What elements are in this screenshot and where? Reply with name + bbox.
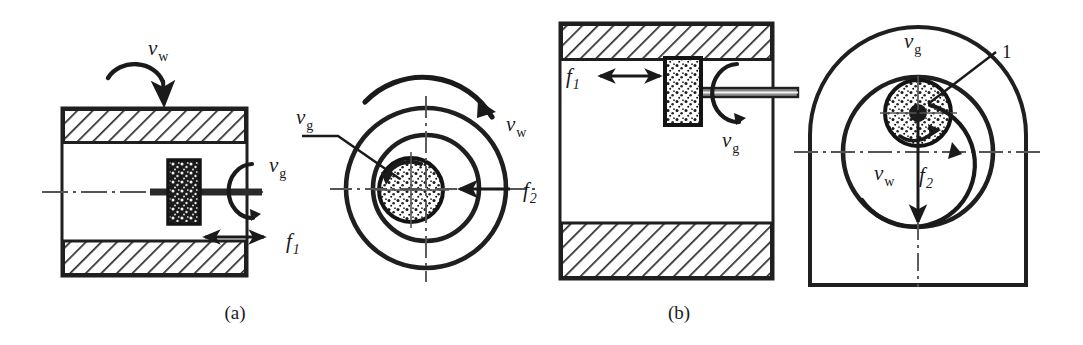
panel-a-end-view xyxy=(302,77,540,282)
panel-b-section-view xyxy=(560,23,798,279)
grinding-wheel-b xyxy=(665,58,701,125)
label-f1-a-section: f1 xyxy=(286,229,300,257)
workpiece-rotation-arc-a xyxy=(108,64,163,82)
caption-panel-a: (a) xyxy=(224,302,245,324)
label-nu-w-a-section: νw xyxy=(148,36,169,64)
label-nu-g-a-end: νg xyxy=(296,105,313,133)
technical-figure: νw νg f1 xyxy=(0,0,1083,345)
label-f2-a-end: f2 xyxy=(523,178,537,206)
label-f2-b-end: f2 xyxy=(919,163,933,191)
label-nu-w-a-end: νw xyxy=(506,112,527,140)
workpiece-wall-bottom-b xyxy=(562,223,772,278)
panel-a-section-view xyxy=(42,64,268,276)
panel-b-end-view xyxy=(794,27,1042,287)
grinding-wheel-a xyxy=(168,160,200,224)
workpiece-wall-top-a xyxy=(64,110,246,143)
label-nu-w-b-end: νw xyxy=(874,161,895,189)
workpiece-wall-bottom-a xyxy=(64,241,246,275)
label-nu-g-a-section: νg xyxy=(269,153,286,181)
workpiece-rotation-arrow-a xyxy=(163,80,164,104)
workpiece-wall-top-b xyxy=(562,25,772,60)
caption-panel-b: (b) xyxy=(668,302,690,324)
figure-root: νw νg f1 xyxy=(0,0,1083,345)
label-callout-1-b: 1 xyxy=(1002,41,1012,62)
label-f1-b-section: f1 xyxy=(566,64,580,92)
workpiece-rotation-arc-end-a xyxy=(365,77,492,117)
spindle-rotation-arrow-a xyxy=(250,209,261,221)
label-nu-g-b-end: νg xyxy=(904,29,921,57)
workpiece-rotation-arrow-end-b xyxy=(948,142,962,159)
label-nu-g-b-section: νg xyxy=(722,128,739,156)
